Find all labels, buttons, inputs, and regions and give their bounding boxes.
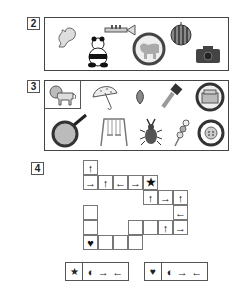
maze-cell[interactable]: ↑ bbox=[98, 175, 113, 190]
maze-cell[interactable] bbox=[143, 220, 158, 235]
maze-cell[interactable]: ↑ bbox=[173, 190, 188, 205]
maze-cell[interactable]: ← bbox=[173, 205, 188, 220]
half-circle-icon: ◐ bbox=[167, 266, 174, 278]
section-2-panel bbox=[44, 17, 229, 71]
star-icon: ★ bbox=[66, 263, 83, 280]
maze-cell[interactable]: → bbox=[128, 175, 143, 190]
section-number-2: 2 bbox=[27, 17, 40, 30]
stag-beetle-icon[interactable] bbox=[139, 117, 163, 147]
half-circle-icon: ◐ bbox=[88, 266, 95, 278]
heart-rule-box: ♥ ◐ → ← bbox=[144, 262, 208, 281]
maze-cell[interactable] bbox=[83, 220, 98, 235]
maze-cell[interactable] bbox=[83, 205, 98, 220]
maze-cell[interactable]: → bbox=[173, 220, 188, 235]
camera-icon[interactable] bbox=[195, 44, 221, 64]
maze-cell[interactable] bbox=[113, 235, 128, 250]
maze-cell[interactable]: → bbox=[83, 175, 98, 190]
horse-in-circle-icon[interactable] bbox=[132, 32, 166, 66]
left-arrow-icon: ← bbox=[112, 266, 123, 278]
maze-cell[interactable]: ↑ bbox=[83, 160, 98, 175]
swing-icon[interactable] bbox=[98, 117, 130, 147]
umbrella-icon[interactable] bbox=[91, 83, 119, 111]
star-rule-box: ★ ◐ → ← bbox=[65, 262, 129, 281]
maze-cell[interactable] bbox=[128, 235, 143, 250]
heart-icon: ♥ bbox=[145, 263, 162, 280]
left-arrow-icon: ← bbox=[191, 266, 202, 278]
maze-cell-heart[interactable]: ♥ bbox=[83, 235, 98, 250]
maze-cell[interactable]: ↑ bbox=[143, 190, 158, 205]
dango-icon[interactable] bbox=[172, 117, 192, 147]
pinecone-icon[interactable] bbox=[134, 89, 146, 105]
section-number-3: 3 bbox=[27, 80, 40, 93]
maze-cell-star[interactable]: ★ bbox=[143, 175, 158, 190]
maze-cell[interactable] bbox=[98, 235, 113, 250]
hammer-icon[interactable] bbox=[158, 83, 184, 109]
rice-cooker-in-circle-icon[interactable] bbox=[195, 82, 225, 112]
maze-cell[interactable]: ↑ bbox=[158, 220, 173, 235]
right-arrow-icon: → bbox=[177, 266, 188, 278]
section-number-4: 4 bbox=[31, 162, 44, 175]
right-arrow-icon: → bbox=[98, 266, 109, 278]
panda-icon[interactable] bbox=[85, 36, 111, 68]
lion-icon bbox=[48, 84, 78, 106]
maze-cell[interactable]: → bbox=[158, 190, 173, 205]
lion-example-box bbox=[45, 81, 81, 109]
maze-cell[interactable]: ← bbox=[113, 175, 128, 190]
frying-pan-icon[interactable] bbox=[51, 112, 89, 148]
section-3-panel bbox=[44, 80, 229, 151]
maze-cell[interactable] bbox=[128, 220, 143, 235]
squirrel-icon[interactable] bbox=[53, 24, 79, 50]
watermelon-icon[interactable] bbox=[170, 22, 192, 46]
button-in-circle-icon[interactable] bbox=[197, 119, 225, 147]
